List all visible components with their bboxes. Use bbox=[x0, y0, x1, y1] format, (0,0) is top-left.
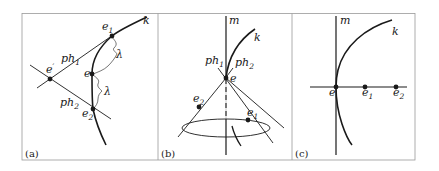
panel-label-a: (a) bbox=[25, 148, 39, 159]
panel-label-c: (c) bbox=[295, 148, 309, 159]
cone-line-left bbox=[178, 78, 226, 137]
point-e bbox=[224, 76, 229, 81]
label-m: m bbox=[229, 14, 239, 27]
label-m: m bbox=[340, 14, 350, 27]
label-e-prime: e′ bbox=[46, 62, 55, 76]
label-k: k bbox=[143, 14, 150, 27]
label-k: k bbox=[254, 31, 261, 44]
point-e2 bbox=[91, 107, 96, 112]
label-ph2: ph2 bbox=[235, 56, 254, 71]
brace-lambda-2 bbox=[93, 75, 102, 109]
panel-label-b: (b) bbox=[161, 148, 175, 159]
label-ph1: ph1 bbox=[61, 52, 80, 67]
curve-k bbox=[92, 17, 147, 145]
label-e: e bbox=[329, 86, 336, 99]
label-e1: e1 bbox=[247, 106, 258, 121]
label-e2: e2 bbox=[193, 92, 205, 107]
curve-k bbox=[226, 29, 255, 78]
figure: k e1 ph1 e′ e λ λ ph2 e2 (a) m k bbox=[0, 0, 439, 171]
curve-k-lower bbox=[232, 126, 241, 146]
panel-a-labels: k e1 ph1 e′ e λ λ ph2 e2 (a) bbox=[25, 14, 150, 159]
point-e-prime bbox=[48, 77, 53, 82]
label-k: k bbox=[392, 25, 399, 38]
panel-a bbox=[30, 17, 147, 145]
label-e2: e2 bbox=[393, 86, 405, 101]
cone-line-right bbox=[226, 78, 284, 128]
label-lambda-1: λ bbox=[115, 48, 123, 61]
panel-b bbox=[178, 16, 284, 155]
label-e1: e1 bbox=[102, 20, 113, 35]
label-e1: e1 bbox=[362, 86, 373, 101]
label-e: e bbox=[84, 67, 91, 80]
line-ph2 bbox=[30, 65, 111, 119]
label-ph2: ph2 bbox=[60, 96, 79, 111]
label-e: e bbox=[230, 72, 237, 85]
label-lambda-2: λ bbox=[103, 85, 111, 98]
label-ph1: ph1 bbox=[205, 54, 224, 69]
curve-k bbox=[336, 20, 392, 145]
